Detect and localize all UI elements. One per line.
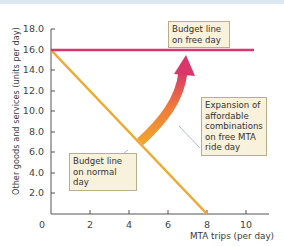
- y-tick-label: 2.0: [14, 187, 44, 198]
- y-tick-label: 14.0: [14, 64, 44, 75]
- expansion-note-leader: [179, 126, 200, 148]
- y-tick-label: 4.0: [14, 167, 44, 178]
- y-tick-label: 8.0: [14, 126, 44, 137]
- free-day-note: Budget line on free day: [168, 21, 230, 48]
- x-ticks: [90, 210, 246, 214]
- x-tick-label: 6: [158, 219, 178, 230]
- x-tick-label: 4: [119, 219, 139, 230]
- expansion-note: Expansion of affordable combinations on …: [201, 97, 267, 156]
- y-tick-label: 12.0: [14, 85, 44, 96]
- y-tick-label: 16.0: [14, 44, 44, 55]
- normal-day-note: Budget line on normal day: [69, 153, 137, 191]
- x-axis-label: MTA trips (per day): [190, 231, 274, 241]
- expansion-arrow: [140, 72, 183, 142]
- y-tick-label: 6.0: [14, 146, 44, 157]
- origin-label: 0: [32, 219, 52, 230]
- x-tick-label: 10: [236, 219, 256, 230]
- x-tick-label: 2: [80, 219, 100, 230]
- y-tick-label: 18.0: [14, 23, 44, 34]
- arrow-head-icon: [174, 55, 195, 76]
- x-tick-label: 8: [197, 219, 217, 230]
- y-tick-label: 10.0: [14, 105, 44, 116]
